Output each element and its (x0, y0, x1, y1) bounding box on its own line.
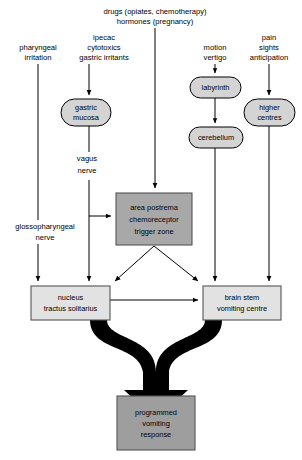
nerve-label-glossopharyngeal: glossopharyngeal nerve (6, 220, 84, 244)
higher-centres-line-2: centres (257, 113, 282, 122)
glossopharyngeal-nerve-line-1: glossopharyngeal (15, 222, 75, 231)
node-cerebellum[interactable]: cerebellum (189, 127, 243, 148)
flowchart-canvas: pharyngeal irritation ipecac cytotoxics … (0, 0, 302, 460)
stimulus-motion-line-2: vertigo (204, 53, 227, 62)
node-brain-stem-vomiting-centre[interactable]: brain stem vomiting centre (203, 286, 281, 320)
connector-ctz-to-vomiting-centre (154, 246, 198, 281)
stimulus-motion-line-1: motion (204, 43, 227, 52)
labyrinth-label: labyrinth (202, 83, 230, 92)
node-labyrinth[interactable]: labyrinth (190, 77, 241, 98)
vagus-nerve-line-2: nerve (78, 166, 97, 175)
stimulus-ipecac-line-2: cytotoxics (87, 43, 121, 52)
response-line-1: programmed (135, 408, 177, 417)
stimulus-ipecac-line-3: gastric irritants (79, 53, 129, 62)
node-area-postrema-ctz[interactable]: area postrema chemoreceptor trigger zone (116, 193, 192, 245)
stimulus-ipecac-line-1: ipecac (93, 33, 115, 42)
stimulus-drugs-line-2: hormones (pregnancy) (117, 17, 194, 26)
stimulus-label-drugs: drugs (opiates, chemotherapy) hormones (… (104, 7, 207, 26)
stimulus-pharyngeal-line-1: pharyngeal (19, 43, 57, 52)
ctz-line-3: trigger zone (134, 227, 173, 236)
nts-line-1: nucleus (58, 293, 84, 302)
response-line-2: vomiting (142, 419, 170, 428)
node-higher-centres[interactable]: higher centres (244, 99, 295, 126)
stimulus-label-pharyngeal: pharyngeal irritation (19, 43, 57, 62)
cerebellum-label: cerebellum (198, 133, 234, 142)
stimulus-label-motion: motion vertigo (204, 43, 227, 62)
node-nucleus-tractus-solitarius[interactable]: nucleus tractus solitarius (31, 286, 110, 320)
node-gastric-mucosa[interactable]: gastric mucosa (61, 99, 111, 126)
response-line-3: response (141, 430, 171, 439)
nerve-label-vagus: vagus nerve (74, 152, 100, 178)
vomiting-centre-line-1: brain stem (225, 293, 260, 302)
stimulus-label-ipecac: ipecac cytotoxics gastric irritants (79, 33, 129, 62)
vomiting-centre-line-2: vomiting centre (217, 304, 267, 313)
stimulus-pain-line-2: sights (259, 43, 279, 52)
stimulus-drugs-line-1: drugs (opiates, chemotherapy) (104, 7, 207, 16)
stimulus-pharyngeal-line-2: irritation (24, 53, 51, 62)
gastric-mucosa-line-1: gastric (75, 103, 97, 112)
ctz-line-1: area postrema (130, 203, 179, 212)
nts-line-2: tractus solitarius (44, 304, 98, 313)
stimulus-pain-line-1: pain (262, 33, 276, 42)
vomiting-pathway-diagram: pharyngeal irritation ipecac cytotoxics … (0, 0, 302, 460)
gastric-mucosa-line-2: mucosa (73, 113, 100, 122)
stimulus-label-pain: pain sights anticipation (250, 33, 288, 62)
higher-centres-line-1: higher (259, 103, 280, 112)
ctz-line-2: chemoreceptor (129, 215, 179, 224)
connector-ctz-to-nts (115, 246, 154, 281)
node-programmed-vomiting-response[interactable]: programmed vomiting response (117, 396, 195, 450)
stimulus-pain-line-3: anticipation (250, 53, 288, 62)
glossopharyngeal-nerve-line-2: nerve (36, 233, 55, 242)
vagus-nerve-line-1: vagus (77, 154, 97, 163)
